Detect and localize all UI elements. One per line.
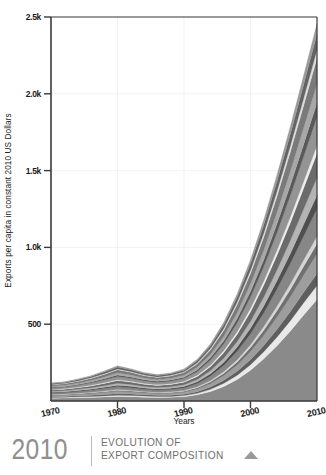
y-axis-title-text: Exports per capita in constant 2010 US D… [4, 113, 13, 287]
chart-footer: 2010 EVOLUTION OF EXPORT COMPOSITION [0, 430, 326, 475]
play-triangle-icon[interactable] [244, 451, 258, 459]
footer-caption-line1: EVOLUTION OF [101, 436, 246, 449]
x-axis-title: Years [173, 416, 194, 426]
x-tick-label: 2000 [240, 405, 261, 419]
x-tick-label: 2010 [306, 405, 326, 419]
y-tick-label: 1.5k [26, 166, 42, 176]
y-tick-label: 2.5k [26, 12, 42, 22]
y-tick-label: 1.0k [26, 242, 42, 252]
chart-screenshot: 5001.0k1.5k2.0k2.5k 19701980199020002010… [0, 0, 326, 475]
stacked-area-chart: 5001.0k1.5k2.0k2.5k 19701980199020002010… [0, 0, 326, 430]
chart-area: 5001.0k1.5k2.0k2.5k 19701980199020002010… [0, 0, 326, 430]
y-tick-label: 500 [28, 319, 42, 329]
x-tick-label: 1970 [40, 405, 61, 419]
y-axis-title: Exports per capita in constant 2010 US D… [0, 0, 18, 400]
footer-caption-line2: EXPORT COMPOSITION [101, 449, 224, 462]
y-axis-ticks: 5001.0k1.5k2.0k2.5k [26, 12, 51, 329]
footer-year: 2010 [0, 434, 74, 464]
x-tick-label: 1980 [107, 405, 128, 419]
footer-caption: EVOLUTION OF EXPORT COMPOSITION [92, 436, 258, 462]
y-tick-label: 2.0k [26, 89, 42, 99]
